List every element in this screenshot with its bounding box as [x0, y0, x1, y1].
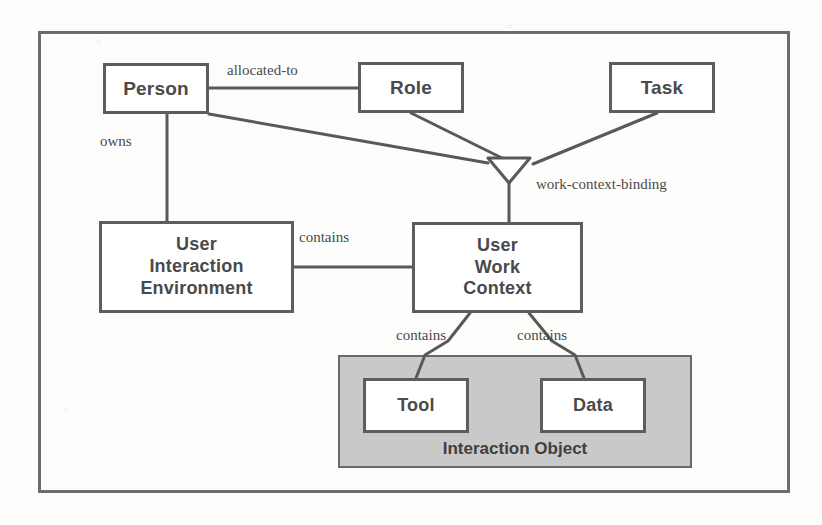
entity-box-task[interactable]: Task: [609, 62, 715, 113]
entity-label-data: Data: [573, 395, 613, 417]
relationship-label-owns: owns: [100, 133, 132, 150]
entity-label-uie: UserInteractionEnvironment: [140, 234, 252, 300]
task-junction-link: [533, 113, 657, 164]
entity-box-uwc[interactable]: UserWorkContext: [412, 222, 583, 313]
entity-label-uwc: UserWorkContext: [463, 235, 531, 301]
work-context-binding-junction-icon: [488, 158, 530, 183]
entity-box-role[interactable]: Role: [358, 62, 464, 113]
entity-box-data[interactable]: Data: [540, 378, 646, 433]
uwc-tool-link: [416, 313, 470, 378]
relationship-label-contains-uwc-tool: contains: [396, 327, 446, 344]
entity-label-tool: Tool: [397, 395, 434, 417]
entity-label-person: Person: [123, 77, 189, 100]
entity-label-role: Role: [390, 76, 432, 99]
relationship-label-allocated-to: allocated-to: [227, 62, 298, 79]
relationship-label-contains-uie-uwc: contains: [299, 229, 349, 246]
entity-box-person[interactable]: Person: [103, 63, 209, 114]
relationship-label-work-context-binding: work-context-binding: [536, 176, 667, 193]
entity-box-uie[interactable]: UserInteractionEnvironment: [99, 221, 294, 313]
diagram-page: Interaction Object PersonRoleTaskUserInt…: [0, 0, 822, 525]
person-junction-link: [209, 114, 488, 163]
uwc-data-link: [529, 313, 584, 378]
entity-box-tool[interactable]: Tool: [363, 378, 469, 433]
entity-label-task: Task: [641, 76, 684, 99]
relationship-label-contains-uwc-data: contains: [517, 327, 567, 344]
